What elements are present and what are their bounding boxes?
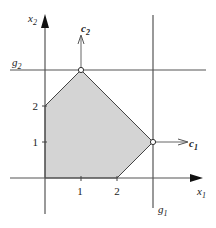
y-tick-label-1: 1 (33, 136, 39, 148)
c1-label: c1 (189, 137, 198, 152)
x2-axis-arrow-icon (41, 14, 49, 28)
c2-label: c2 (81, 22, 90, 37)
vertex-point-3-1 (150, 139, 155, 144)
x1-axis-label: x1 (196, 185, 206, 200)
x-tick-label-1: 1 (77, 185, 83, 197)
feasible-region (45, 70, 153, 178)
y-tick-label-2: 2 (33, 100, 39, 112)
g2-label: g2 (12, 56, 22, 71)
diagram-canvas: x2 x1 g2 g1 c2 c1 1 2 1 2 (0, 0, 216, 228)
x2-axis-label: x2 (27, 12, 37, 27)
vertex-point-1-3 (78, 67, 83, 72)
x-tick-label-2: 2 (114, 185, 120, 197)
x1-axis-arrow-icon (190, 174, 203, 182)
g1-label: g1 (158, 203, 168, 218)
